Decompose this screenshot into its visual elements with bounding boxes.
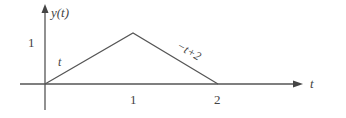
falling-segment-label: −t+2: [175, 38, 204, 63]
x-tick-label-2: 2: [214, 92, 221, 107]
y-axis-arrow-icon: [42, 4, 49, 13]
diagram-canvas: y(t) t 1 1 2 t −t+2: [0, 0, 346, 118]
x-axis-label: t: [310, 76, 314, 91]
y-tick-label-1: 1: [28, 35, 35, 50]
x-tick-label-1: 1: [130, 92, 137, 107]
rising-segment-label: t: [58, 55, 62, 69]
x-axis-arrow-icon: [293, 81, 303, 88]
signal-diagram: y(t) t 1 1 2 t −t+2: [0, 0, 346, 118]
y-axis-label: y(t): [49, 5, 69, 20]
